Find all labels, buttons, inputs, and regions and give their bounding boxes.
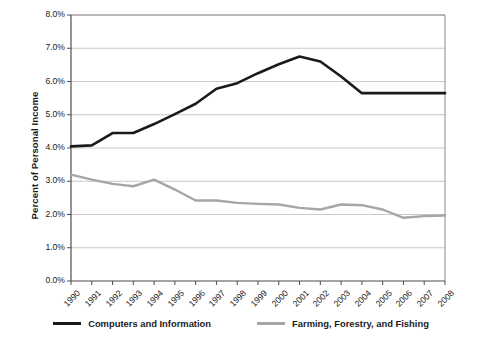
chart-container: Percent of Personal Income 0.0%1.0%2.0%3… <box>0 0 482 344</box>
legend-item[interactable]: Farming, Forestry, and Fishing <box>257 318 429 329</box>
legend-label: Farming, Forestry, and Fishing <box>292 318 429 329</box>
legend-label: Computers and Information <box>88 318 211 329</box>
legend-item[interactable]: Computers and Information <box>53 318 211 329</box>
chart-legend: Computers and InformationFarming, Forest… <box>0 318 482 329</box>
legend-swatch-icon <box>53 322 81 325</box>
plot-area <box>0 0 482 344</box>
series-line-1 <box>71 57 445 147</box>
legend-swatch-icon <box>257 322 285 325</box>
